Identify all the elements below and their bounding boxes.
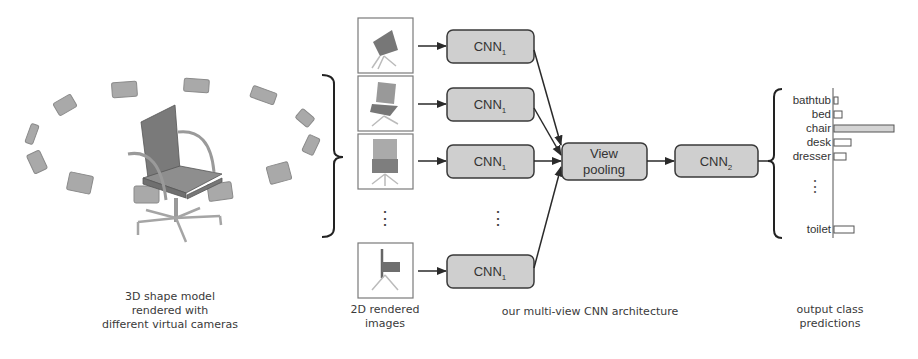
camera-icon (250, 85, 278, 105)
class-label-toilet: toilet (807, 223, 832, 235)
class-label-desk: desk (807, 136, 832, 148)
rendered-view-3 (358, 134, 413, 189)
pooling-arrows (534, 50, 561, 268)
views-brace (322, 75, 343, 237)
caption-rendered-images: 2D rendered images (345, 303, 425, 331)
bar-toilet (834, 226, 854, 233)
camera-icon (111, 81, 137, 98)
camera-icon (53, 94, 77, 116)
camera-icon (184, 78, 210, 93)
bar-bathtub (834, 97, 838, 104)
bar-bed (834, 111, 842, 118)
camera-icon (302, 134, 320, 155)
cnn1-boxes: CNN1 CNN1 CNN1 ⋮ CNN1 (447, 30, 534, 288)
cnn1-box: CNN1 (447, 255, 534, 288)
camera-icon (134, 186, 159, 203)
bar-dresser (834, 153, 846, 160)
camera-icon (66, 172, 93, 195)
3d-shape-model (25, 78, 320, 242)
class-label-bathtub: bathtub (793, 94, 831, 106)
cnn1-box: CNN1 (447, 88, 534, 121)
cnn1-box: CNN1 (447, 145, 534, 178)
view-pooling-box: View pooling (562, 143, 647, 180)
cnn-ellipsis: ⋮ (489, 208, 507, 228)
camera-icon (25, 123, 39, 145)
predictions-brace (768, 89, 782, 238)
views-ellipsis: ⋮ (376, 208, 394, 228)
rendered-view-n (358, 243, 413, 298)
class-label-chair: chair (806, 122, 831, 134)
classes-ellipsis: ⋮ (807, 178, 823, 195)
cnn1-box: CNN1 (447, 30, 534, 63)
predictions-chart: bathtub bed chair desk dresser ⋮ toilet (793, 88, 894, 238)
camera-icon (295, 108, 315, 127)
class-label-bed: bed (812, 108, 831, 120)
camera-icon (26, 150, 47, 174)
cnn2-box: CNN2 (675, 145, 758, 177)
rendered-views: ⋮ (358, 18, 413, 298)
svg-text:pooling: pooling (583, 162, 625, 177)
rendered-view-2 (358, 76, 413, 131)
class-label-dresser: dresser (793, 150, 832, 162)
caption-predictions: output class predictions (780, 303, 880, 331)
camera-icon (266, 161, 292, 184)
caption-architecture: our multi-view CNN architecture (490, 305, 690, 319)
view-to-cnn-arrows (418, 46, 446, 271)
bar-chair (834, 125, 894, 132)
chair-3d (128, 105, 222, 242)
caption-3d-shape-model: 3D shape model rendered with different v… (90, 290, 250, 332)
rendered-view-1 (358, 18, 413, 73)
svg-text:View: View (590, 146, 619, 161)
bar-desk (834, 139, 851, 146)
